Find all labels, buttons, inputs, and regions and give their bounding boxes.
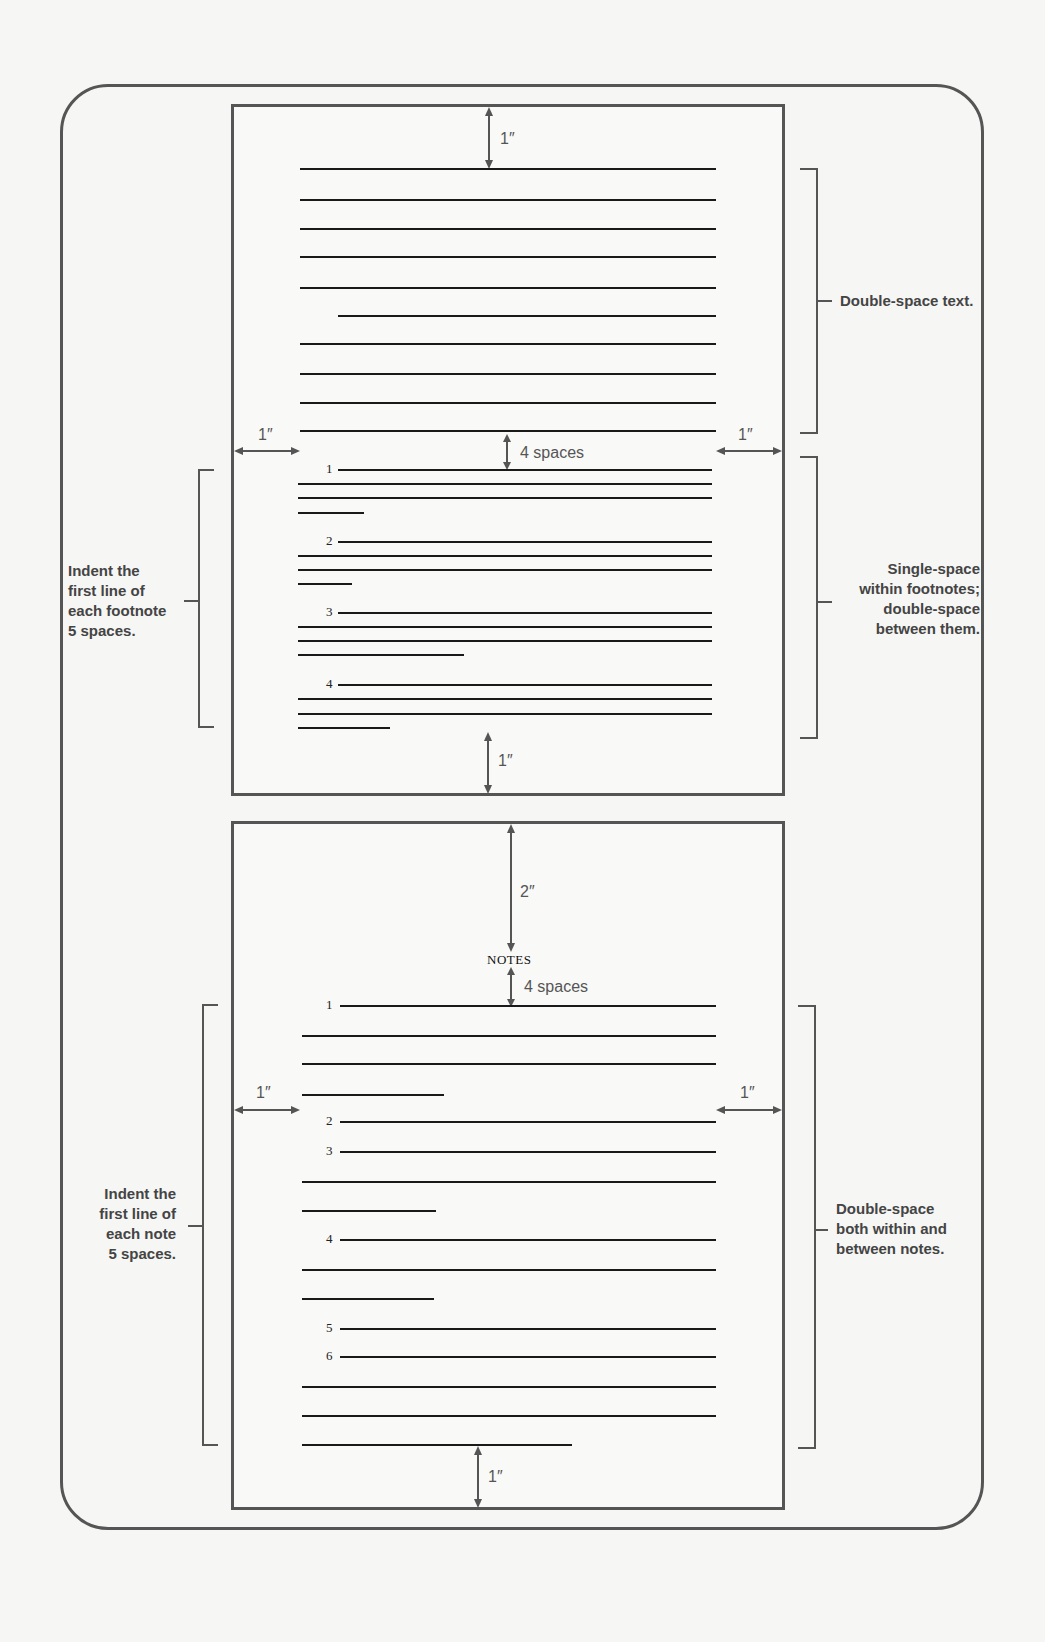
note-line (302, 1444, 572, 1446)
top-margin-arrow-icon (482, 107, 496, 169)
footnote-line (298, 512, 364, 514)
right-margin-arrow-icon (716, 445, 782, 457)
text-line (300, 228, 716, 230)
footnote-number: 1 (326, 461, 333, 477)
four-spaces-label: 4 spaces (524, 978, 588, 996)
left-margin-label: 1″ (256, 1084, 271, 1102)
double-space-text-label: Double-space text. (840, 291, 973, 311)
label-line: first line of (68, 581, 188, 601)
note-line (302, 1035, 716, 1037)
text-line-indented (338, 315, 716, 317)
bottom-margin-arrow-icon (481, 732, 495, 794)
footnote-line (298, 483, 712, 485)
note-line (340, 1356, 716, 1358)
footnote-line (298, 727, 390, 729)
note-number: 1 (326, 997, 333, 1013)
label-line: first line of (60, 1204, 176, 1224)
label-line: between them. (834, 619, 980, 639)
bracket-tick (816, 1229, 828, 1231)
label-line: within footnotes; (834, 579, 980, 599)
text-line (300, 256, 716, 258)
label-line: 5 spaces. (68, 621, 188, 641)
footnote-line (298, 626, 712, 628)
top-margin-label: 1″ (500, 130, 515, 148)
footnote-line (298, 497, 712, 499)
footnote-line (298, 583, 352, 585)
text-line (300, 343, 716, 345)
four-spaces-arrow-icon (504, 967, 518, 1007)
bracket-tick (818, 601, 832, 603)
four-spaces-arrow-icon (500, 434, 514, 470)
footnote-line (298, 713, 712, 715)
text-line (300, 199, 716, 201)
text-line (300, 373, 716, 375)
note-indent-label: Indent the first line of each note 5 spa… (60, 1184, 176, 1264)
footnote-line (338, 684, 712, 686)
note-line (302, 1386, 716, 1388)
footnotes-spacing-label: Single-space within footnotes; double-sp… (834, 559, 980, 639)
text-line (300, 430, 716, 432)
right-margin-label: 1″ (740, 1084, 755, 1102)
left-margin-label: 1″ (258, 426, 273, 444)
label-line: Double-space (836, 1199, 986, 1219)
label-line: each footnote (68, 601, 188, 621)
label-line: Indent the (60, 1184, 176, 1204)
note-line (340, 1121, 716, 1123)
note-line (340, 1151, 716, 1153)
footnotes-spacing-bracket (800, 456, 818, 739)
note-line (340, 1328, 716, 1330)
bracket-tick (818, 300, 832, 302)
double-space-text-bracket (800, 168, 818, 434)
footnote-number: 4 (326, 676, 333, 692)
footnote-indent-label: Indent the first line of each footnote 5… (68, 561, 188, 641)
footnote-indent-bracket (198, 469, 214, 728)
footnote-number: 3 (326, 604, 333, 620)
left-margin-arrow-icon (234, 1104, 300, 1116)
footnote-line (298, 654, 464, 656)
footnote-line (338, 541, 712, 543)
bottom-margin-arrow-icon (471, 1446, 485, 1508)
right-margin-arrow-icon (716, 1104, 782, 1116)
note-number: 2 (326, 1113, 333, 1129)
note-number: 5 (326, 1320, 333, 1336)
label-line: Indent the (68, 561, 188, 581)
footnote-line (298, 698, 712, 700)
note-line (302, 1415, 716, 1417)
label-line: each note (60, 1224, 176, 1244)
note-line (302, 1181, 716, 1183)
bottom-margin-label: 1″ (488, 1468, 503, 1486)
left-margin-arrow-icon (234, 445, 300, 457)
label-line: both within and (836, 1219, 986, 1239)
note-number: 6 (326, 1348, 333, 1364)
two-inch-margin-label: 2″ (520, 883, 535, 901)
footnote-line (338, 469, 712, 471)
note-indent-bracket (202, 1004, 218, 1446)
note-line (340, 1005, 716, 1007)
notes-spacing-bracket (798, 1005, 816, 1449)
footnote-line (338, 612, 712, 614)
text-line (300, 168, 716, 170)
text-line (300, 402, 716, 404)
bottom-margin-label: 1″ (498, 752, 513, 770)
note-number: 4 (326, 1231, 333, 1247)
bracket-tick (188, 1225, 202, 1227)
footnote-line (298, 555, 712, 557)
note-line (302, 1063, 716, 1065)
note-line (302, 1298, 434, 1300)
footnote-line (298, 640, 712, 642)
label-line: double-space (834, 599, 980, 619)
label-line: between notes. (836, 1239, 986, 1259)
footnote-number: 2 (326, 533, 333, 549)
note-line (302, 1269, 716, 1271)
footnote-line (298, 569, 712, 571)
label-line: Single-space (834, 559, 980, 579)
four-spaces-label: 4 spaces (520, 444, 584, 462)
notes-spacing-label: Double-space both within and between not… (836, 1199, 986, 1259)
note-line (302, 1094, 444, 1096)
text-line (300, 287, 716, 289)
two-inch-margin-arrow-icon (504, 824, 518, 952)
note-line (340, 1239, 716, 1241)
notes-heading: NOTES (487, 952, 531, 968)
note-number: 3 (326, 1143, 333, 1159)
note-line (302, 1210, 436, 1212)
